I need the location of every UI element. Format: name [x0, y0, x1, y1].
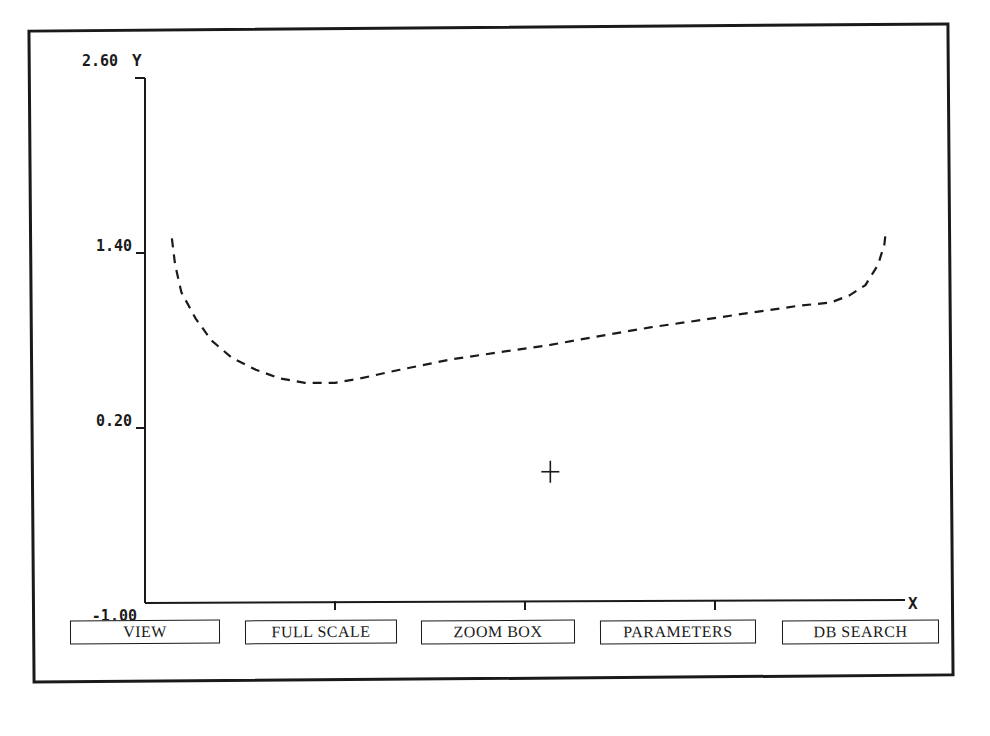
x-axis-title: X	[908, 594, 918, 613]
tick-labels: YX-1.000.201.402.600.301.502.703.905.10	[82, 51, 918, 641]
data-series-curve	[172, 230, 886, 383]
y-tick-label: 2.60	[82, 52, 118, 70]
y-axis-title: Y	[132, 51, 142, 70]
crosshair-cursor-icon[interactable]	[541, 461, 559, 483]
zoom-box-button[interactable]: ZOOM BOX	[421, 620, 575, 645]
full-scale-button[interactable]: FULL SCALE	[245, 620, 397, 645]
y-tick-label: 0.20	[96, 412, 132, 430]
view-button[interactable]: VIEW	[70, 620, 220, 645]
db-search-button[interactable]: DB SEARCH	[782, 620, 939, 645]
axes	[135, 78, 905, 603]
y-tick-label: 1.40	[96, 237, 132, 255]
ticks	[136, 253, 715, 610]
parameters-button[interactable]: PARAMETERS	[600, 620, 756, 645]
